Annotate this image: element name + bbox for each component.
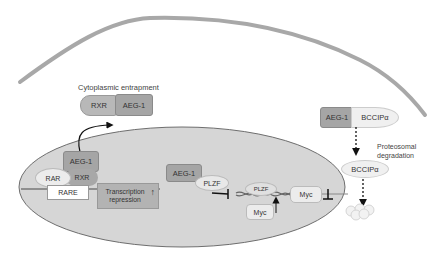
degraded-fragments-icon <box>0 0 442 253</box>
